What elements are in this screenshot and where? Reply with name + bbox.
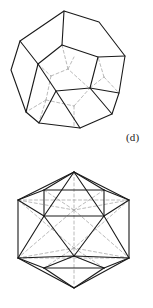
icosahedron-drawing	[0, 154, 153, 308]
icosahedron-visible-edges	[18, 172, 129, 288]
figure-label-d: (d)	[126, 131, 139, 143]
figure-icosahedron-panel: C (e)	[0, 154, 153, 308]
figure-dodecahedron-panel: (d)	[0, 0, 153, 154]
